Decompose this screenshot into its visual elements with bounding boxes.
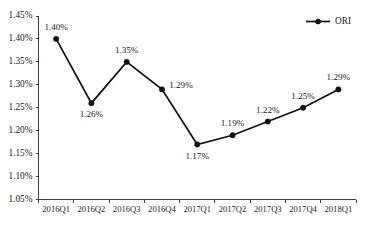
y-tick-label-5: 1.20%	[8, 125, 32, 135]
data-point-label-1: 1.26%	[80, 109, 104, 119]
data-point-4	[195, 142, 200, 147]
x-tick-label-5: 2017Q2	[219, 204, 247, 214]
data-point-1	[89, 100, 94, 105]
data-point-label-4: 1.17%	[186, 151, 210, 161]
data-point-3	[159, 87, 164, 92]
chart-canvas: 1.45%1.40%1.35%1.30%1.25%1.20%1.15%1.10%…	[0, 0, 370, 231]
data-point-8	[336, 87, 341, 92]
y-tick-label-3: 1.30%	[8, 79, 32, 89]
x-axis: 2016Q12016Q22016Q32016Q42017Q12017Q22017…	[39, 200, 357, 214]
y-tick-label-4: 1.25%	[8, 102, 32, 112]
legend: ORI	[306, 16, 351, 26]
x-tick-label-3: 2016Q4	[148, 204, 176, 214]
x-tick-label-8: 2018Q1	[325, 204, 353, 214]
data-point-7	[300, 105, 305, 110]
data-point-label-5: 1.19%	[221, 118, 245, 128]
legend-label-ori: ORI	[335, 16, 351, 26]
data-point-label-0: 1.40%	[44, 22, 68, 32]
x-tick-label-2: 2016Q3	[113, 204, 141, 214]
data-point-0	[53, 36, 58, 41]
y-axis: 1.45%1.40%1.35%1.30%1.25%1.20%1.15%1.10%…	[8, 10, 38, 204]
x-tick-label-6: 2017Q3	[254, 204, 282, 214]
y-tick-label-1: 1.40%	[8, 33, 32, 43]
y-axis-tick-labels: 1.45%1.40%1.35%1.30%1.25%1.20%1.15%1.10%…	[8, 10, 32, 204]
x-tick-label-4: 2017Q1	[183, 204, 211, 214]
data-point-label-6: 1.22%	[256, 105, 280, 115]
x-tick-label-0: 2016Q1	[42, 204, 70, 214]
legend-marker-icon	[315, 19, 320, 24]
line-chart: 1.45%1.40%1.35%1.30%1.25%1.20%1.15%1.10%…	[0, 0, 370, 231]
data-point-5	[230, 133, 235, 138]
data-point-label-7: 1.25%	[291, 91, 315, 101]
data-point-labels: 1.40%1.26%1.35%1.29%1.17%1.19%1.22%1.25%…	[44, 22, 350, 161]
x-axis-tick-labels: 2016Q12016Q22016Q32016Q42017Q12017Q22017…	[42, 204, 352, 214]
y-tick-label-2: 1.35%	[8, 56, 32, 66]
data-point-2	[124, 59, 129, 64]
x-tick-label-1: 2016Q2	[78, 204, 106, 214]
data-point-6	[265, 119, 270, 124]
data-point-label-8: 1.29%	[327, 72, 351, 82]
x-tick-label-7: 2017Q4	[289, 204, 317, 214]
y-tick-label-7: 1.10%	[8, 171, 32, 181]
y-tick-label-6: 1.15%	[8, 148, 32, 158]
y-tick-label-8: 1.05%	[8, 194, 32, 204]
y-tick-label-0: 1.45%	[8, 10, 32, 20]
data-point-label-3: 1.29%	[169, 80, 193, 90]
data-point-label-2: 1.35%	[115, 45, 139, 55]
